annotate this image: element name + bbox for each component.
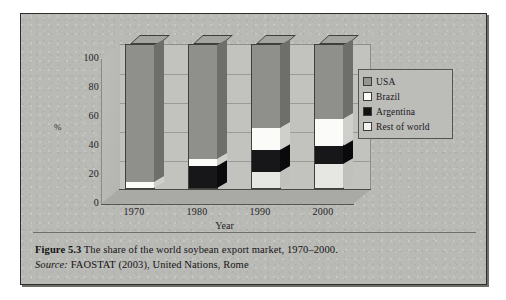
y-axis-title: %: [54, 122, 62, 132]
legend-label-rest-of-world: Rest of world: [376, 122, 430, 132]
bar-faces-1970: [125, 44, 155, 189]
bar-segment-side-1980-usa: [217, 39, 227, 158]
bar-segment-side-2000-usa: [343, 39, 353, 119]
bar-segment-1990-row: [251, 172, 281, 189]
x-tick-1980: 1980: [187, 206, 208, 217]
x-axis-title-text: Year: [215, 220, 233, 231]
bar-segment-1970-bra: [125, 182, 155, 189]
bar-1990: [251, 44, 281, 189]
x-tick-1990: 1990: [250, 206, 271, 217]
bar-segment-1990-arg: [251, 150, 281, 172]
legend-item-brazil: Brazil: [363, 89, 447, 104]
plot-base-axis: [119, 189, 371, 190]
caption-divider: [33, 232, 476, 233]
legend-swatch-rest-of-world: [363, 122, 372, 131]
bar-segment-side-1990-usa: [280, 39, 290, 128]
caption-source-label: Source:: [35, 259, 68, 270]
legend-swatch-brazil: [363, 92, 372, 101]
legend-item-rest-of-world: Rest of world: [363, 119, 447, 134]
plot-front-axis: [101, 204, 354, 205]
figure-caption: Figure 5.3 The share of the world soybea…: [35, 242, 475, 272]
bar-segment-1980-arg: [188, 166, 218, 189]
bar-segment-2000-usa: [314, 44, 344, 119]
plot-side-wall: [101, 44, 120, 204]
x-axis-ticks: 1970 1980 1990 2000: [101, 206, 376, 220]
bar-segment-2000-row: [314, 164, 344, 189]
y-tick-60: 60: [65, 110, 99, 121]
legend-label-usa: USA: [376, 77, 395, 87]
plot-area: [101, 44, 371, 204]
legend-swatch-usa: [363, 77, 372, 86]
y-tick-40: 40: [65, 139, 99, 150]
legend-label-argentina: Argentina: [376, 107, 415, 117]
bar-2000: [314, 44, 344, 189]
caption-source-text: FAOSTAT (2003), United Nations, Rome: [71, 259, 249, 270]
plot-side-edge: [101, 59, 102, 204]
plot-floor: [101, 189, 371, 205]
bar-segment-1980-bra: [188, 159, 218, 166]
caption-line-1: Figure 5.3 The share of the world soybea…: [35, 242, 475, 257]
bar-faces-1980: [188, 44, 218, 189]
bar-faces-2000: [314, 44, 344, 189]
bar-segment-side-1970-usa: [154, 39, 164, 182]
figure-box: % 0 20 40 60 80 100: [20, 13, 487, 285]
bar-faces-1990: [251, 44, 281, 189]
x-axis-title: Year: [21, 220, 488, 231]
bar-segment-1980-usa: [188, 44, 218, 159]
bar-1970: [125, 44, 155, 189]
legend-label-brazil: Brazil: [376, 92, 400, 102]
bar-segment-1990-bra: [251, 128, 281, 150]
legend-item-usa: USA: [363, 74, 447, 89]
y-tick-20: 20: [65, 168, 99, 179]
x-tick-1970: 1970: [124, 206, 145, 217]
y-tick-100: 100: [65, 52, 99, 63]
legend-swatch-argentina: [363, 107, 372, 116]
caption-line-2: Source: FAOSTAT (2003), United Nations, …: [35, 257, 475, 272]
caption-number: Figure 5.3: [35, 244, 81, 255]
bar-segment-2000-bra: [314, 119, 344, 145]
bar-1980: [188, 44, 218, 189]
legend-item-argentina: Argentina: [363, 104, 447, 119]
x-tick-2000: 2000: [313, 206, 334, 217]
y-tick-0: 0: [65, 197, 99, 208]
y-tick-80: 80: [65, 81, 99, 92]
bar-segment-2000-arg: [314, 146, 344, 165]
figure-page: % 0 20 40 60 80 100: [0, 0, 506, 300]
y-axis-ticks: 0 20 40 60 80 100: [65, 44, 99, 209]
caption-text: The share of the world soybean export ma…: [84, 244, 338, 255]
chart-region: % 0 20 40 60 80 100: [21, 14, 488, 219]
chart-legend: USA Brazil Argentina Rest of world: [358, 69, 453, 139]
bar-segment-1990-usa: [251, 44, 281, 128]
bar-segment-1970-usa: [125, 44, 155, 182]
